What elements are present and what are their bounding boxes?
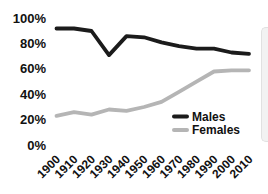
y-tick-label: 60% <box>20 61 46 76</box>
series-line-males <box>57 29 250 56</box>
line-chart: 0%20%40%60%80%100%1900191019201930194019… <box>0 0 268 194</box>
legend-label-females: Females <box>192 123 240 137</box>
y-tick-label: 80% <box>20 36 46 51</box>
chart-screenshot: 0%20%40%60%80%100%1900191019201930194019… <box>0 0 268 194</box>
y-tick-label: 20% <box>20 112 46 127</box>
legend-label-males: Males <box>192 110 226 124</box>
y-tick-label: 100% <box>13 11 47 26</box>
y-tick-label: 40% <box>20 87 46 102</box>
adjacent-panel-edge <box>261 27 268 142</box>
y-tick-label: 0% <box>27 138 46 153</box>
